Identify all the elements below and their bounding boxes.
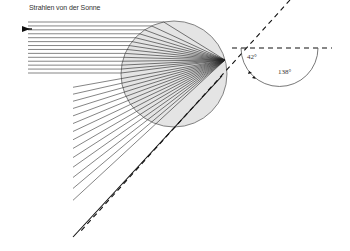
- raindrop-diagram: [0, 0, 350, 251]
- angle-label-42: 42°: [247, 53, 257, 61]
- diagram-title: Strahlen von der Sonne: [29, 4, 100, 11]
- arc-arrowhead-icon: [252, 76, 256, 79]
- angle-label-138: 138°: [278, 68, 291, 76]
